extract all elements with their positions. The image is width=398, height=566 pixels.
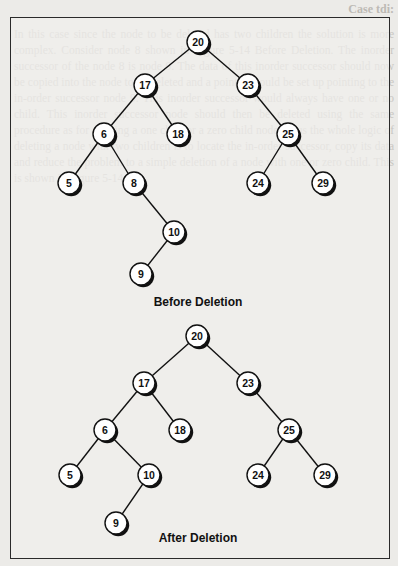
node-label: 18 [174, 424, 186, 436]
tree-node-29: 29 [314, 464, 338, 488]
node-label: 20 [191, 330, 203, 342]
node-label: 25 [283, 424, 295, 436]
node-label: 20 [192, 36, 204, 48]
node-label: 17 [138, 377, 150, 389]
tree-node-9: 9 [105, 512, 129, 536]
node-label: 29 [317, 177, 329, 189]
node-label: 23 [242, 377, 254, 389]
tree-node-20: 20 [187, 31, 211, 55]
node-label: 9 [113, 517, 119, 529]
node-label: 23 [242, 79, 254, 91]
tree-node-24: 24 [247, 464, 271, 488]
tree-node-8: 8 [123, 172, 147, 196]
caption-before-deletion: Before Deletion [154, 295, 243, 309]
node-label: 5 [67, 469, 73, 481]
node-label: 8 [131, 177, 137, 189]
node-label: 17 [139, 79, 151, 91]
bst-deletion-figure: 20172361825582429109 Before Deletion 201… [0, 0, 398, 566]
node-label: 9 [138, 268, 144, 280]
tree-node-5: 5 [59, 464, 83, 488]
node-label: 6 [101, 128, 107, 140]
tree-node-18: 18 [167, 123, 191, 147]
node-label: 10 [168, 226, 180, 238]
node-label: 25 [282, 128, 294, 140]
tree-node-5: 5 [58, 172, 82, 196]
tree-node-18: 18 [169, 419, 193, 443]
tree-node-29: 29 [312, 172, 336, 196]
tree-node-20: 20 [186, 325, 210, 349]
tree-node-25: 25 [277, 123, 301, 147]
caption-after-deletion: After Deletion [159, 531, 238, 545]
node-label: 6 [102, 424, 108, 436]
node-label: 29 [319, 469, 331, 481]
tree-node-24: 24 [247, 172, 271, 196]
tree-node-9: 9 [130, 263, 154, 287]
node-label: 24 [252, 469, 264, 481]
node-label: 18 [172, 128, 184, 140]
tree-node-23: 23 [237, 74, 261, 98]
tree-before-deletion: 20172361825582429109 [58, 31, 336, 287]
tree-after-deletion: 2017236182551024299 [59, 325, 338, 536]
node-label: 10 [143, 469, 155, 481]
node-label: 24 [252, 177, 264, 189]
node-label: 5 [66, 177, 72, 189]
tree-node-23: 23 [237, 372, 261, 396]
